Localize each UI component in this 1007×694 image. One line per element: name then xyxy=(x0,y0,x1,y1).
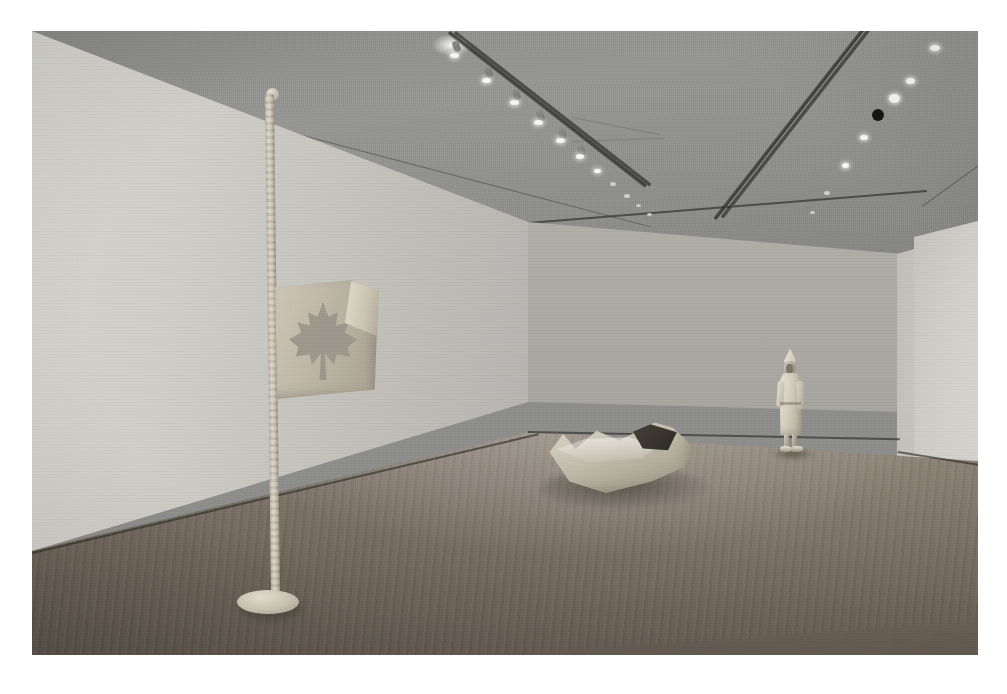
boat-sculpture xyxy=(545,416,697,498)
photo-title: Gallery installation view xyxy=(0,0,1,1)
track-spotlight xyxy=(624,194,630,198)
track-spotlight-bright xyxy=(889,94,900,103)
figure-right-shoe xyxy=(790,446,803,452)
figure-face xyxy=(786,364,793,373)
track-spotlight xyxy=(556,138,565,143)
track-spotlight xyxy=(482,78,491,83)
screenshot-root: Interior photograph of a museum gallery … xyxy=(0,0,1007,694)
track-spotlight xyxy=(860,135,868,140)
track-spotlight xyxy=(810,211,815,214)
gallery-photograph xyxy=(32,31,978,655)
flagpole-base xyxy=(237,590,299,614)
photo-caption: Interior photograph of a museum gallery … xyxy=(0,0,1,1)
standing-figure-sculpture xyxy=(774,349,808,455)
track-spotlight xyxy=(510,100,519,105)
track-spotlight xyxy=(534,120,543,125)
track-spotlight xyxy=(636,204,641,207)
figure-belt xyxy=(780,402,801,405)
flag-sculpture xyxy=(273,280,379,399)
track-spotlight xyxy=(610,182,616,186)
track-spotlight xyxy=(906,78,915,84)
track-spotlight xyxy=(450,53,459,58)
track-spotlight xyxy=(594,169,601,173)
track-spotlight xyxy=(647,213,652,216)
track-spotlight xyxy=(824,191,830,195)
track-spotlight xyxy=(930,45,940,51)
track-spotlight xyxy=(842,163,849,168)
track-spotlight xyxy=(576,154,584,159)
dark-ceiling-fixture xyxy=(872,109,884,121)
